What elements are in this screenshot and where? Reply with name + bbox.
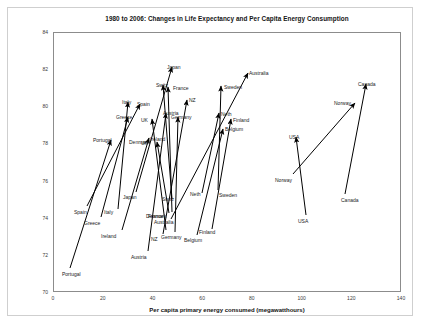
y-tick-74: 74 xyxy=(26,215,48,221)
y-tick-82: 82 xyxy=(26,66,48,72)
label-end-nz: NZ xyxy=(189,97,196,103)
label-start-nz: NZ xyxy=(151,236,158,242)
label-start-sweden: Sweden xyxy=(219,192,237,198)
label-end-australia: Australia xyxy=(249,70,268,76)
y-tick-76: 76 xyxy=(26,178,48,184)
x-tick-100: 100 xyxy=(290,295,314,301)
x-tick-120: 120 xyxy=(339,295,363,301)
label-end-canada: Canada xyxy=(358,81,376,87)
y-tick-72: 72 xyxy=(26,252,48,258)
x-tick-20: 20 xyxy=(91,295,115,301)
x-tick-60: 60 xyxy=(190,295,214,301)
label-end-norway: Norway xyxy=(334,100,351,106)
label-start-belgium: Belgium xyxy=(184,237,202,243)
label-start-switz: Switz xyxy=(162,196,174,202)
label-end-switz: Switz xyxy=(156,82,168,88)
label-start-uk: UK xyxy=(141,140,148,146)
label-end-uk: UK xyxy=(141,117,148,123)
plot-area xyxy=(53,32,401,292)
label-end-spain: Spain xyxy=(137,101,150,107)
label-end-japan: Japan xyxy=(167,64,181,70)
label-start-italy: Italy xyxy=(104,209,113,215)
label-start-usa: USA xyxy=(298,218,308,224)
label-end-italy: Italy xyxy=(122,99,131,105)
chart-figure: 1980 to 2006: Changes in Life Expectancy… xyxy=(0,0,421,325)
label-end-usa: USA xyxy=(289,134,299,140)
label-start-finland: Finland xyxy=(199,229,215,235)
x-tick-40: 40 xyxy=(140,295,164,301)
label-start-ireland: Ireland xyxy=(101,233,116,239)
chart-title: 1980 to 2006: Changes in Life Expectancy… xyxy=(53,15,401,22)
label-end-finland: Finland xyxy=(233,117,249,123)
x-tick-0: 0 xyxy=(41,295,65,301)
label-end-sweden: Sweden xyxy=(224,84,242,90)
label-start-norway: Norway xyxy=(275,177,292,183)
label-end-portugal: Portugal xyxy=(93,137,112,143)
label-start-portugal: Portugal xyxy=(62,271,81,277)
label-end-belgium: Belgium xyxy=(225,126,243,132)
label-start-australia: Australia xyxy=(154,219,173,225)
label-end-germany: Germany xyxy=(171,114,192,120)
label-start-neth: Neth xyxy=(190,191,201,197)
label-end-neth: Neth xyxy=(221,111,232,117)
label-end-france: France xyxy=(173,85,189,91)
label-start-canada: Canada xyxy=(341,197,359,203)
label-start-austria: Austria xyxy=(131,254,147,260)
x-axis-label: Per capita primary energy consumed (mega… xyxy=(53,307,401,313)
x-tick-80: 80 xyxy=(240,295,264,301)
x-tick-140: 140 xyxy=(389,295,413,301)
label-start-japan: Japan xyxy=(123,194,137,200)
label-start-france: France xyxy=(148,213,164,219)
label-start-germany: Germany xyxy=(161,234,182,240)
y-tick-78: 78 xyxy=(26,140,48,146)
y-tick-80: 80 xyxy=(26,103,48,109)
label-start-spain: Spain xyxy=(74,209,87,215)
y-tick-84: 84 xyxy=(26,29,48,35)
label-end-ireland: Ireland xyxy=(150,136,165,142)
label-end-greece: Greece xyxy=(116,114,132,120)
label-start-greece: Greece xyxy=(84,220,100,226)
